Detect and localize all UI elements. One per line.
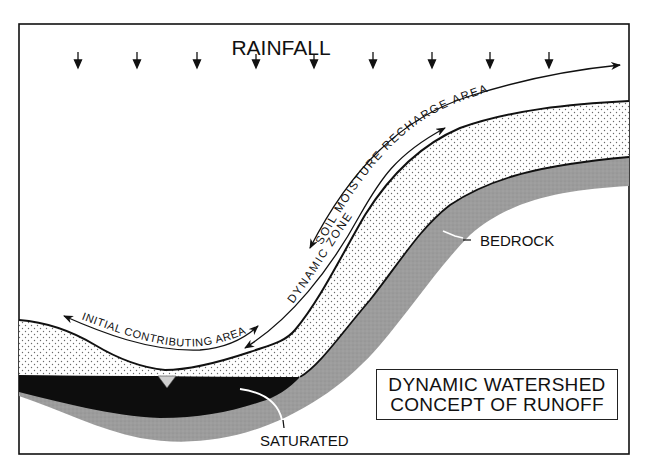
diagram-title-box: DYNAMIC WATERSHED CONCEPT OF RUNOFF	[376, 369, 618, 420]
bedrock-label: BEDROCK	[480, 232, 554, 249]
diagram-title-line-2: CONCEPT OF RUNOFF	[390, 395, 604, 415]
saturated-label: SATURATED	[260, 432, 349, 449]
rainfall-label: RAINFALL	[231, 36, 330, 59]
diagram-title-line-1: DYNAMIC WATERSHED	[388, 375, 605, 395]
